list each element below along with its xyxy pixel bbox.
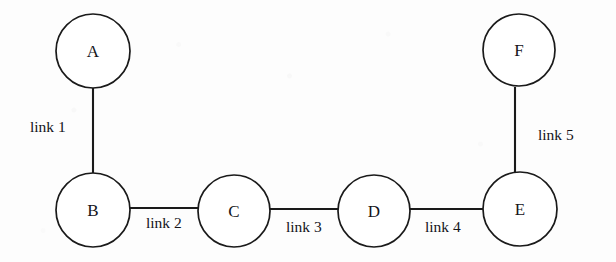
node-label-C: C <box>228 203 239 220</box>
edge-label-link2: link 2 <box>146 215 182 231</box>
edge-label-link5: link 5 <box>538 127 574 143</box>
node-label-A: A <box>87 43 99 60</box>
edge-label-link3: link 3 <box>286 219 322 235</box>
node-label-E: E <box>515 201 525 218</box>
node-label-D: D <box>368 203 380 220</box>
network-diagram-canvas: ABCDEF link 1link 2link 3link 4link 5 <box>0 0 616 262</box>
nodes-group <box>56 14 557 247</box>
edge-label-link4: link 4 <box>425 219 461 235</box>
node-label-B: B <box>87 202 98 219</box>
edges-group <box>93 87 515 209</box>
edge-label-link1: link 1 <box>30 119 66 135</box>
node-label-F: F <box>514 42 523 59</box>
